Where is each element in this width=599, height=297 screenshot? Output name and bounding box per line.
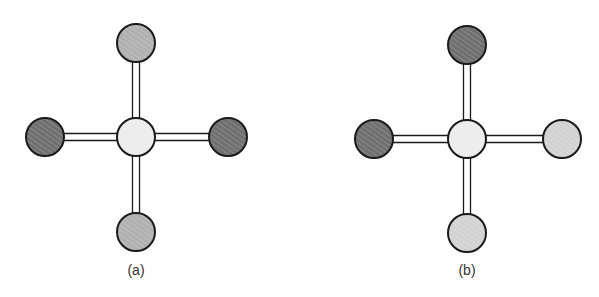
panel-b-caption: (b)	[458, 262, 475, 278]
atom-center	[448, 120, 486, 158]
atom-left-dark	[355, 120, 393, 158]
atom-right-dark	[209, 118, 247, 156]
molecule-diagram	[0, 0, 599, 297]
atom-right-light_medium	[543, 120, 581, 158]
atom-top-dark	[448, 26, 486, 64]
panel-a-caption: (a)	[127, 262, 144, 278]
atom-bottom-medium	[117, 213, 155, 251]
atom-center	[117, 118, 155, 156]
panel-a-structure	[26, 24, 247, 251]
atom-left-dark	[26, 118, 64, 156]
atom-top-medium	[117, 24, 155, 62]
atom-bottom-light_medium	[448, 214, 486, 252]
panel-b-structure	[355, 26, 581, 252]
